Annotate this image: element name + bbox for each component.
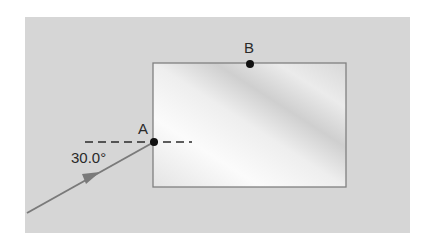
glass-block	[153, 63, 346, 187]
point-b-label: B	[244, 39, 254, 56]
refraction-diagram: A B 30.0°	[0, 0, 429, 246]
point-a	[150, 138, 158, 146]
angle-label: 30.0°	[71, 149, 106, 166]
point-a-label: A	[138, 120, 148, 137]
point-b	[246, 60, 254, 68]
